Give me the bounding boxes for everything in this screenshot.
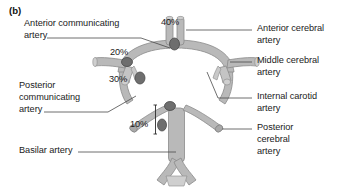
- aneurysm-marker-aca: [122, 58, 133, 67]
- aneurysm-marker-basilar-trunk: [158, 119, 167, 131]
- label-anterior-cerebral-artery-line2: artery: [257, 35, 280, 46]
- label-internal-carotid-artery-line2: artery: [257, 103, 280, 114]
- percent-anterior-cerebral: 20%: [110, 47, 128, 58]
- label-posterior-cerebral-artery-line3: artery: [257, 146, 280, 157]
- panel-label: (b): [9, 5, 21, 16]
- basilar-trunk-shape: [169, 108, 185, 162]
- label-posterior-communicating-artery-line2: communicating: [19, 92, 80, 103]
- posterior-cerebral-artery-right-vessel: [183, 105, 221, 131]
- label-posterior-communicating-artery-line3: artery: [19, 104, 42, 115]
- figure-circle-of-willis: (b) Anterior communicating artery Poster…: [0, 0, 341, 195]
- basilar-percent-bracket: [154, 105, 158, 134]
- label-posterior-cerebral-artery-line1: Posterior: [257, 122, 293, 133]
- aneurysm-marker-acom: [170, 38, 180, 50]
- mca-left-cut-end: [93, 58, 97, 67]
- middle-cerebral-artery-left-vessel: [95, 58, 125, 68]
- label-posterior-communicating-artery-line1: Posterior: [19, 80, 55, 91]
- percent-middle-cerebral: 30%: [109, 74, 127, 85]
- label-anterior-cerebral-artery-line1: Anterior cerebral: [257, 23, 324, 34]
- label-basilar-artery-line1: Basilar artery: [19, 145, 72, 156]
- middle-cerebral-artery-right-vessel: [227, 58, 257, 68]
- label-anterior-communicating-artery-line2: artery: [24, 30, 47, 41]
- label-middle-cerebral-artery-line1: Middle cerebral: [257, 55, 319, 66]
- vertebral-junction: [166, 176, 187, 186]
- percent-basilar: 10%: [130, 119, 148, 130]
- label-anterior-communicating-artery-line1: Anterior communicating: [24, 18, 119, 29]
- aneurysm-marker-basilar-tip: [165, 102, 176, 111]
- label-posterior-cerebral-artery-line2: cerebral: [257, 134, 290, 145]
- label-middle-cerebral-artery-line2: artery: [257, 67, 280, 78]
- ica-right-cut-end: [223, 79, 230, 85]
- label-internal-carotid-artery-line1: Internal carotid: [257, 91, 317, 102]
- percent-anterior-communicating: 40%: [161, 17, 179, 28]
- aneurysm-marker-mca: [135, 72, 145, 84]
